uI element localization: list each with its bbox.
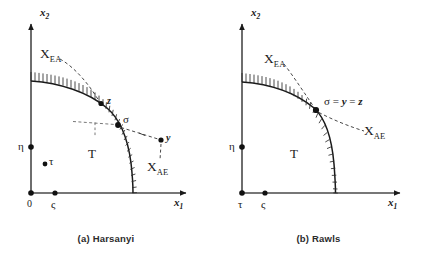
point-tau-marker bbox=[43, 162, 48, 167]
label-point-zeta: ς bbox=[261, 199, 265, 210]
caption-harsanyi: (a) Harsanyi bbox=[0, 233, 212, 244]
point-sigma-marker bbox=[115, 122, 121, 128]
panel-rawls: x2 x1 XEA XAE σ = y = z η τ ς T (b) Rawl… bbox=[212, 0, 425, 258]
y-axis-label: x2 bbox=[251, 7, 260, 21]
x-axis-label: x1 bbox=[174, 197, 183, 211]
point-kink-marker bbox=[313, 107, 319, 113]
label-point-y: y bbox=[166, 133, 170, 143]
x-axis-label: x1 bbox=[388, 197, 397, 211]
label-point-tau: τ bbox=[49, 156, 53, 167]
construction-line-horizontal bbox=[73, 122, 115, 125]
point-eta-marker bbox=[28, 144, 34, 150]
point-z-marker bbox=[98, 101, 103, 106]
y-axis-label: x2 bbox=[40, 7, 49, 21]
label-x-ea: XEA bbox=[264, 52, 285, 68]
figure-root: x2 x1 XEA XAE z σ y η τ ς 0 T (a) Harsan… bbox=[0, 0, 425, 258]
point-zeta-marker bbox=[52, 190, 57, 195]
label-point-sigma: σ bbox=[123, 114, 129, 125]
point-tau-marker bbox=[239, 190, 245, 196]
panel-harsanyi: x2 x1 XEA XAE z σ y η τ ς 0 T (a) Harsan… bbox=[0, 0, 212, 258]
frontier-curve bbox=[242, 82, 336, 193]
label-x-ae: XAE bbox=[364, 124, 385, 140]
point-origin-marker bbox=[28, 190, 34, 196]
harsanyi-plot-svg bbox=[0, 0, 212, 258]
label-origin: 0 bbox=[27, 199, 32, 209]
label-region-t: T bbox=[88, 147, 96, 160]
label-point-eta: η bbox=[229, 141, 235, 152]
label-x-ae: XAE bbox=[147, 160, 168, 176]
caption-rawls: (b) Rawls bbox=[212, 233, 425, 244]
frontier-hatching-upper bbox=[31, 72, 137, 193]
frontier-curve bbox=[31, 81, 133, 193]
label-x-ea: XEA bbox=[40, 47, 61, 63]
frontier-hatching-upper bbox=[242, 73, 338, 193]
label-point-z: z bbox=[107, 96, 111, 106]
point-eta-marker bbox=[239, 144, 245, 150]
point-zeta-marker bbox=[262, 190, 267, 195]
leader-kink-to-xae bbox=[319, 113, 364, 132]
point-y-marker bbox=[158, 137, 163, 142]
label-point-zeta: ς bbox=[51, 199, 55, 210]
label-point-tau: τ bbox=[238, 199, 242, 210]
leader-xea-to-kink bbox=[284, 64, 314, 107]
label-region-t: T bbox=[290, 147, 298, 160]
label-point-eta: η bbox=[18, 141, 24, 152]
label-kink-equation: σ = y = z bbox=[324, 96, 363, 107]
rawls-plot-svg bbox=[212, 0, 425, 258]
leader-y-to-xae bbox=[160, 144, 161, 160]
leader-xea-to-z bbox=[60, 59, 99, 101]
